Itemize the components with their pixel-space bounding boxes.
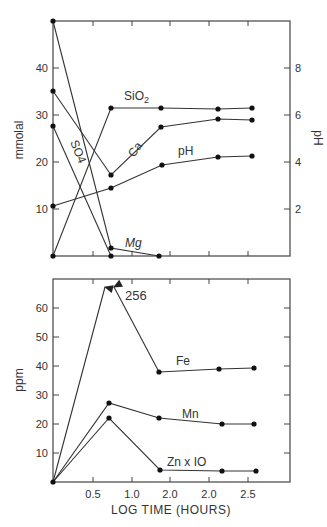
x-tick-labels: 0.5 1.0 2.0 2.0 2.5 xyxy=(85,488,255,500)
series-mg xyxy=(53,21,159,256)
bottom-y-tick-labels: 10 20 30 40 50 60 xyxy=(36,302,48,459)
label-ph: pH xyxy=(178,144,193,158)
bottom-left-y-ticks xyxy=(53,308,59,453)
top-series-labels: SiO2 Ca pH SO4 Mg xyxy=(67,89,193,250)
y-axis-label: mmolal xyxy=(12,121,26,160)
tick-label: 20 xyxy=(36,156,48,168)
y-axis-label: ppm xyxy=(12,368,26,391)
tick-label: 10 xyxy=(36,447,48,459)
label-fe: Fe xyxy=(176,354,190,368)
bottom-series-lines xyxy=(53,287,256,482)
top-left-y-tick-labels: 10 20 30 40 xyxy=(36,62,48,215)
bottom-series-labels: 256 Fe Mn Zn x IO xyxy=(125,288,206,469)
bottom-frame xyxy=(53,279,290,482)
tick-label: 2 xyxy=(295,203,301,215)
bottom-panel: 10 20 30 40 50 60 0.5 1.0 2.0 2.0 2.5 LO… xyxy=(12,279,290,517)
top-panel: 10 20 30 40 2 4 6 8 mmolal pH xyxy=(12,18,325,258)
label-so4: SO4 xyxy=(67,138,89,166)
tick-label: 30 xyxy=(36,109,48,121)
top-right-y-ticks xyxy=(284,68,290,209)
y-axis-right-label: pH xyxy=(311,130,325,145)
tick-label: 2.5 xyxy=(240,488,255,500)
series-sio2 xyxy=(53,108,252,256)
label-ca: Ca xyxy=(125,139,145,160)
top-x-ticks xyxy=(93,21,248,256)
top-series-lines xyxy=(53,21,252,256)
label-zn: Zn x IO xyxy=(167,455,206,469)
tick-label: 1.0 xyxy=(124,488,139,500)
tick-label: 4 xyxy=(295,156,301,168)
tick-label: 50 xyxy=(36,331,48,343)
tick-label: 2.0 xyxy=(201,488,216,500)
tick-label: 8 xyxy=(295,62,301,74)
tick-label: 10 xyxy=(36,203,48,215)
series-fe xyxy=(159,368,254,372)
tick-label: 30 xyxy=(36,389,48,401)
label-mn: Mn xyxy=(182,407,199,421)
tick-label: 2.0 xyxy=(162,488,177,500)
top-frame xyxy=(53,21,290,256)
tick-label: 40 xyxy=(36,360,48,372)
tick-label: 60 xyxy=(36,302,48,314)
tick-label: 0.5 xyxy=(85,488,100,500)
bottom-right-y-ticks xyxy=(284,308,290,453)
bottom-x-ticks xyxy=(93,279,248,482)
series-zn xyxy=(53,418,256,482)
x-axis-label: LOG TIME (HOURS) xyxy=(111,503,231,517)
label-mg: Mg xyxy=(125,236,142,250)
chart: 10 20 30 40 2 4 6 8 mmolal pH xyxy=(0,0,327,527)
label-peak-256: 256 xyxy=(125,288,147,303)
tick-label: 20 xyxy=(36,418,48,430)
label-sio2: SiO2 xyxy=(124,89,149,105)
tick-label: 6 xyxy=(295,109,301,121)
tick-label: 40 xyxy=(36,62,48,74)
top-right-y-tick-labels: 2 4 6 8 xyxy=(295,62,301,215)
bottom-series-points xyxy=(50,365,258,484)
